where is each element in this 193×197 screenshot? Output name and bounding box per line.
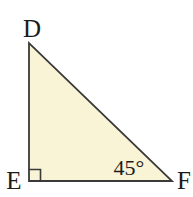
vertex-label-f: F xyxy=(177,167,191,194)
angle-label: 45° xyxy=(114,155,145,180)
triangle-shape xyxy=(29,43,172,181)
geometry-diagram: D E F 45° xyxy=(0,0,193,197)
vertex-label-d: D xyxy=(23,15,41,42)
vertex-label-e: E xyxy=(6,167,21,194)
triangle-figure-svg: D E F 45° xyxy=(0,0,193,197)
